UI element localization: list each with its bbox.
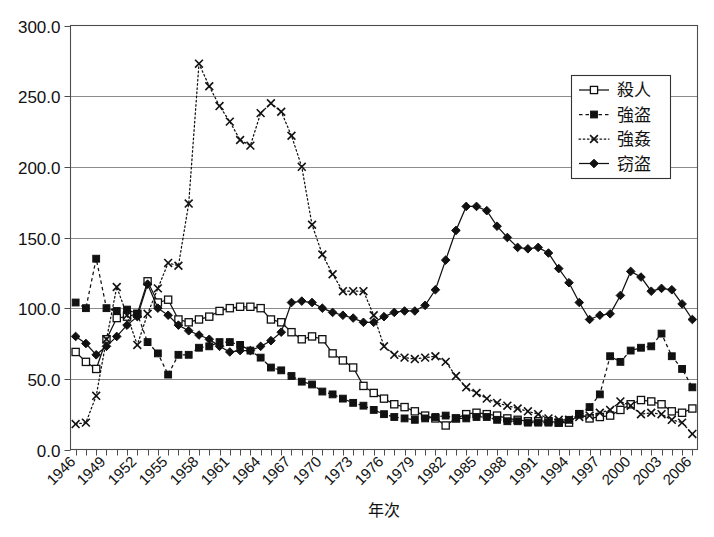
y-axis-tick-label: 0.0 xyxy=(37,442,61,461)
data-point xyxy=(83,305,90,312)
data-point xyxy=(658,401,665,408)
data-point xyxy=(381,411,388,418)
data-point xyxy=(165,371,172,378)
data-point xyxy=(236,303,243,310)
data-point xyxy=(277,108,285,116)
x-axis-tick-label: 1967 xyxy=(258,453,294,489)
y-axis-tick-label: 100.0 xyxy=(18,300,61,319)
data-point xyxy=(441,256,450,265)
data-point xyxy=(535,419,542,426)
data-point xyxy=(318,251,326,259)
data-point xyxy=(596,311,605,320)
data-point xyxy=(452,372,460,380)
data-point xyxy=(329,391,336,398)
data-point xyxy=(463,415,470,422)
data-point xyxy=(627,347,634,354)
data-point xyxy=(657,284,666,293)
data-point xyxy=(678,300,687,309)
x-axis-tick-label: 2003 xyxy=(629,453,665,489)
data-point xyxy=(391,401,398,408)
data-point xyxy=(525,419,532,426)
series-line xyxy=(76,206,693,354)
data-point xyxy=(339,311,348,320)
data-point xyxy=(329,270,337,278)
data-point xyxy=(442,412,449,419)
data-point xyxy=(638,344,645,351)
data-point xyxy=(82,358,89,365)
data-point xyxy=(411,416,418,423)
data-point xyxy=(72,420,80,428)
x-axis-tick-label: 1988 xyxy=(474,453,510,489)
data-point xyxy=(473,414,480,421)
data-point xyxy=(196,344,203,351)
data-point xyxy=(206,313,213,320)
data-point xyxy=(606,310,615,319)
data-point xyxy=(308,298,317,307)
data-point xyxy=(328,308,337,317)
data-point xyxy=(246,142,254,150)
series-4 xyxy=(71,202,696,359)
x-axis-tick-label: 1958 xyxy=(166,453,202,489)
data-point xyxy=(585,315,594,324)
data-point xyxy=(616,291,625,300)
y-axis-tick-label: 50.0 xyxy=(27,371,60,390)
data-point xyxy=(360,382,367,389)
data-point xyxy=(370,389,377,396)
data-point xyxy=(514,418,521,425)
x-axis-tick-label: 1973 xyxy=(320,453,356,489)
data-point xyxy=(637,273,646,282)
data-point xyxy=(72,348,79,355)
data-point xyxy=(236,136,244,144)
data-point xyxy=(626,267,635,276)
data-point xyxy=(607,353,614,360)
data-point xyxy=(226,305,233,312)
chart-container: 0.050.0100.0150.0200.0250.0300.0 1946194… xyxy=(0,0,714,537)
data-point xyxy=(268,364,275,371)
x-axis-ticks xyxy=(77,450,693,456)
data-point xyxy=(288,329,295,336)
data-point xyxy=(309,381,316,388)
data-point xyxy=(308,333,315,340)
data-point xyxy=(113,308,120,315)
data-point xyxy=(82,419,90,427)
data-point xyxy=(205,82,213,90)
legend-label: 殺人 xyxy=(617,80,651,100)
data-point xyxy=(154,284,162,292)
data-point xyxy=(226,339,233,346)
data-point xyxy=(678,419,686,427)
legend-label: 強姦 xyxy=(617,129,651,149)
x-axis-tick-label: 1991 xyxy=(505,453,541,489)
data-point xyxy=(442,358,450,366)
x-axis-tick-labels: 1946194919521955195819611964196719701973… xyxy=(43,453,695,489)
x-axis-tick-label: 1955 xyxy=(135,453,171,489)
data-point xyxy=(544,249,553,258)
data-point xyxy=(689,384,696,391)
data-point xyxy=(308,221,316,229)
data-point xyxy=(688,430,696,438)
line-chart: 0.050.0100.0150.0200.0250.0300.0 1946194… xyxy=(0,0,714,537)
data-point xyxy=(617,398,625,406)
data-point xyxy=(688,315,697,324)
data-point xyxy=(93,255,100,262)
data-point xyxy=(637,396,644,403)
data-point xyxy=(370,407,377,414)
y-axis-tick-label: 150.0 xyxy=(18,230,61,249)
data-point xyxy=(380,395,387,402)
x-axis-tick-label: 1982 xyxy=(413,453,449,489)
data-point xyxy=(514,405,522,413)
data-point xyxy=(184,326,193,335)
data-point xyxy=(339,395,346,402)
data-point xyxy=(668,416,676,424)
data-point xyxy=(504,418,511,425)
y-axis-ticks xyxy=(65,27,71,451)
data-point xyxy=(103,305,110,312)
data-point xyxy=(319,336,326,343)
data-point xyxy=(257,354,264,361)
data-point xyxy=(391,414,398,421)
data-point xyxy=(93,365,100,372)
data-point xyxy=(431,285,440,294)
data-point xyxy=(359,318,368,327)
data-point xyxy=(482,206,491,215)
x-axis-tick-label: 1985 xyxy=(444,453,480,489)
data-point xyxy=(297,297,306,306)
